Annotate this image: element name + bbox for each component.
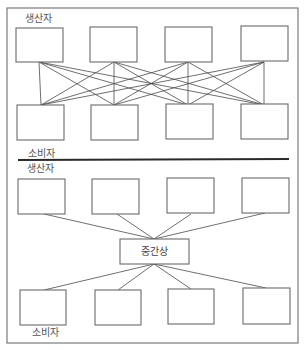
top-consumer-box-2 — [91, 105, 138, 140]
intermediary-label: 중간상 — [141, 246, 168, 257]
top-producer-label: 생산자 — [25, 13, 52, 24]
bottom-producer-box-2 — [92, 179, 139, 214]
top-consumer-box-4 — [241, 104, 288, 139]
bottom-section-intermediary: 생산자 중간상 소비자 — [18, 163, 290, 338]
bottom-producer-label: 생산자 — [27, 163, 54, 174]
bottom-consumer-box-4 — [243, 288, 290, 324]
top-producer-box-3 — [165, 27, 212, 62]
bottom-consumer-box-2 — [95, 290, 141, 325]
bottom-producer-box-3 — [167, 178, 214, 213]
top-producer-box-2 — [90, 27, 137, 62]
section-divider — [18, 159, 289, 160]
top-consumer-label: 소비자 — [28, 148, 55, 159]
producer-to-intermediary-edges — [44, 213, 265, 239]
bottom-producer-box-4 — [242, 178, 289, 213]
top-producer-box-4 — [241, 26, 288, 61]
bottom-consumer-box-1 — [20, 290, 66, 325]
top-consumer-box-3 — [166, 104, 213, 139]
top-consumer-box-1 — [17, 105, 64, 140]
top-producer-box-1 — [16, 28, 63, 62]
distribution-channel-diagram: 생산자 — [0, 0, 306, 350]
top-section-direct: 생산자 — [16, 13, 288, 159]
bottom-producer-box-1 — [18, 179, 65, 214]
direct-edges — [39, 62, 264, 105]
bottom-consumer-box-3 — [168, 289, 214, 324]
intermediary-to-consumer-edges — [44, 264, 266, 290]
bottom-consumer-label: 소비자 — [32, 327, 59, 338]
